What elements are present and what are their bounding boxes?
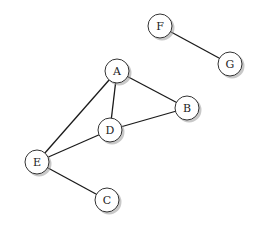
node-a: A bbox=[105, 59, 132, 86]
node-f: F bbox=[148, 14, 175, 41]
node-label: A bbox=[112, 65, 122, 78]
node-b: B bbox=[175, 96, 202, 123]
node-label: C bbox=[103, 194, 111, 207]
edge-a-e bbox=[37, 71, 117, 162]
graph-diagram: ABCDEFG bbox=[0, 0, 264, 231]
node-label: G bbox=[226, 58, 235, 71]
node-label: D bbox=[106, 124, 115, 137]
node-label: E bbox=[33, 156, 41, 169]
node-g: G bbox=[218, 52, 245, 79]
node-label: B bbox=[183, 102, 191, 115]
nodes-layer: ABCDEFG bbox=[25, 14, 245, 215]
node-d: D bbox=[98, 118, 125, 145]
node-e: E bbox=[25, 150, 52, 177]
node-c: C bbox=[95, 188, 122, 215]
node-label: F bbox=[156, 20, 164, 33]
